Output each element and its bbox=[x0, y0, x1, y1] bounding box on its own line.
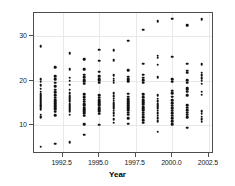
x-tick-mark bbox=[208, 153, 209, 157]
data-point bbox=[156, 76, 159, 79]
x-tick-label: 1997.5 bbox=[125, 159, 145, 166]
data-point bbox=[112, 77, 115, 80]
data-point bbox=[186, 63, 189, 66]
data-point bbox=[127, 98, 130, 101]
data-point bbox=[98, 96, 101, 99]
data-point bbox=[54, 142, 57, 145]
x-tick-mark bbox=[62, 153, 63, 157]
data-point bbox=[200, 93, 203, 96]
data-point bbox=[171, 92, 174, 95]
data-point bbox=[112, 100, 115, 103]
data-point bbox=[112, 92, 115, 95]
data-point bbox=[69, 84, 72, 87]
data-point bbox=[142, 79, 145, 82]
data-point bbox=[156, 109, 159, 112]
data-point bbox=[156, 130, 159, 133]
data-point bbox=[127, 96, 130, 99]
y-tick-mark bbox=[29, 35, 33, 36]
data-point bbox=[112, 112, 115, 115]
data-point bbox=[69, 76, 72, 79]
data-point bbox=[69, 68, 72, 71]
data-point bbox=[171, 78, 174, 81]
data-point bbox=[112, 49, 115, 52]
data-point bbox=[83, 58, 86, 61]
data-point bbox=[156, 107, 159, 110]
data-point bbox=[142, 111, 145, 114]
data-point bbox=[142, 101, 145, 104]
data-point bbox=[127, 113, 130, 116]
data-point bbox=[54, 81, 57, 84]
data-point bbox=[127, 100, 130, 103]
data-point bbox=[142, 93, 145, 96]
data-point bbox=[98, 94, 101, 97]
data-point bbox=[83, 79, 86, 82]
data-point bbox=[112, 80, 115, 83]
gridline-vertical bbox=[209, 13, 210, 152]
data-point bbox=[98, 71, 101, 74]
data-point bbox=[156, 120, 159, 123]
data-point bbox=[98, 75, 101, 78]
data-point bbox=[142, 73, 145, 76]
data-point bbox=[200, 63, 203, 66]
data-point bbox=[112, 59, 115, 62]
data-point bbox=[171, 114, 174, 117]
data-point bbox=[69, 88, 72, 91]
data-point bbox=[156, 63, 159, 66]
data-point bbox=[54, 75, 57, 78]
data-point bbox=[127, 92, 130, 95]
x-tick-label: 2002.5 bbox=[198, 159, 218, 166]
data-point bbox=[186, 69, 189, 72]
data-point bbox=[112, 102, 115, 105]
data-point bbox=[54, 88, 57, 91]
data-point bbox=[69, 92, 72, 95]
data-point bbox=[142, 105, 145, 108]
data-point bbox=[39, 93, 42, 96]
x-tick-label: 2000.0 bbox=[161, 159, 181, 166]
data-point bbox=[39, 78, 42, 81]
data-point bbox=[171, 107, 174, 110]
data-point bbox=[186, 106, 189, 109]
data-point bbox=[142, 81, 145, 84]
data-point bbox=[98, 113, 101, 116]
data-point bbox=[127, 111, 130, 114]
data-point bbox=[186, 104, 189, 107]
data-point bbox=[69, 97, 72, 100]
data-point bbox=[171, 105, 174, 108]
data-point bbox=[200, 115, 203, 118]
data-point bbox=[171, 99, 174, 102]
data-point bbox=[69, 141, 72, 144]
data-point bbox=[200, 18, 203, 21]
data-point bbox=[200, 77, 203, 80]
data-point bbox=[142, 103, 145, 106]
data-point bbox=[186, 94, 189, 97]
data-point bbox=[83, 103, 86, 106]
data-point bbox=[83, 93, 86, 96]
data-point bbox=[171, 18, 174, 21]
data-point bbox=[54, 78, 57, 81]
data-point bbox=[142, 113, 145, 116]
data-point bbox=[127, 76, 130, 79]
data-point bbox=[39, 146, 42, 149]
data-point bbox=[186, 109, 189, 112]
x-tick-label: 1995.0 bbox=[88, 159, 108, 166]
data-point bbox=[200, 80, 203, 83]
data-point bbox=[98, 48, 101, 51]
gridline-vertical bbox=[136, 13, 137, 152]
x-tick-mark bbox=[171, 153, 172, 157]
data-point bbox=[112, 114, 115, 117]
data-point bbox=[112, 74, 115, 77]
data-point bbox=[142, 121, 145, 124]
data-point bbox=[127, 39, 130, 42]
data-point bbox=[69, 80, 72, 83]
data-point bbox=[83, 68, 86, 71]
data-point bbox=[69, 95, 72, 98]
data-point bbox=[171, 109, 174, 112]
data-point bbox=[156, 117, 159, 120]
data-point bbox=[186, 111, 189, 114]
data-point bbox=[200, 74, 203, 77]
data-point bbox=[83, 114, 86, 117]
data-point bbox=[200, 118, 203, 121]
data-point bbox=[83, 76, 86, 79]
data-point bbox=[127, 78, 130, 81]
gridline-horizontal bbox=[34, 36, 212, 37]
